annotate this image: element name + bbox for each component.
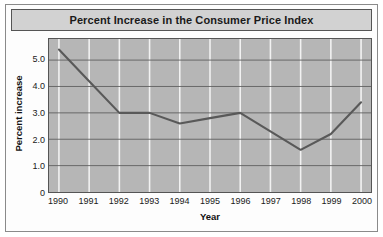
x-axis-tick-labels: 1990199119921993199419951996199719981999… — [48, 196, 372, 210]
x-axis-tick-label: 2000 — [344, 196, 380, 206]
vertical-gridlines — [59, 39, 361, 192]
chart-figure: Percent Increase in the Consumer Price I… — [0, 0, 383, 237]
x-axis-title: Year — [48, 211, 372, 222]
chart-title: Percent Increase in the Consumer Price I… — [69, 14, 313, 26]
chart-title-bar: Percent Increase in the Consumer Price I… — [11, 9, 372, 31]
plot-area — [48, 38, 372, 193]
plot-canvas — [49, 39, 371, 192]
y-axis-title: Percent increase — [13, 54, 24, 174]
